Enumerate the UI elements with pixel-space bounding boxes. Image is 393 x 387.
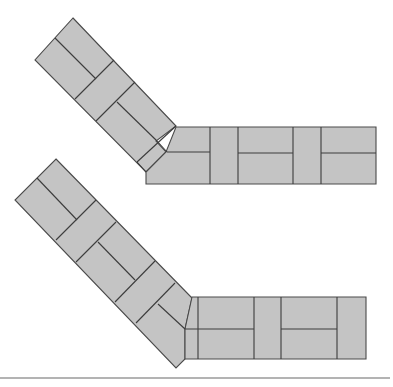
top-diagonal-arm <box>35 18 176 172</box>
bottom-diagonal-arm <box>15 159 192 368</box>
top-paving-layout <box>35 18 376 184</box>
paving-diagram <box>0 0 393 387</box>
bottom-horizontal-arm <box>185 297 366 359</box>
bottom-paving-layout <box>15 159 366 368</box>
top-horizontal-arm <box>146 127 376 184</box>
